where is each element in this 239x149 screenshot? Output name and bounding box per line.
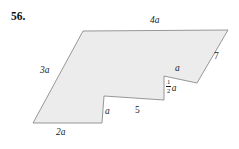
fraction-numerator: 1: [166, 79, 171, 86]
label-step-side-edge: a: [105, 107, 110, 117]
label-bottom-edge: 2a: [56, 128, 66, 138]
geometry-figure: [0, 0, 239, 149]
fraction-denominator: 2: [166, 88, 171, 95]
fraction-one-half: 1 2 a: [166, 79, 177, 95]
label-middle-edge: 5: [135, 106, 140, 116]
fraction-variable: a: [172, 83, 177, 93]
label-notch-side-edge: 1 2 a: [166, 79, 177, 95]
figure-page: 56. 4a 7 a 1 2 a 5 a 3a 2a: [0, 0, 239, 149]
label-left-edge: 3a: [40, 66, 50, 76]
label-right-edge: 7: [214, 52, 219, 62]
label-top-edge: 4a: [150, 16, 160, 26]
label-notch-top-edge: a: [175, 64, 180, 74]
shape-polygon: [33, 30, 228, 123]
